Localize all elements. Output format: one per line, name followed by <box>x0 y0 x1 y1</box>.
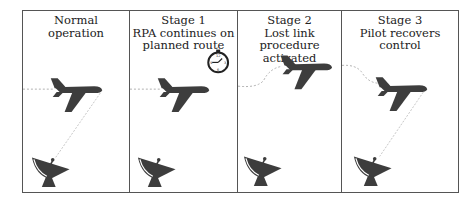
svg-text:12: 12 <box>216 54 220 58</box>
panel-normal-operation: Normal operation <box>23 11 130 192</box>
aircraft-icon <box>158 78 210 112</box>
diagram-frame: Normal operation Stage 1 RPA continues o… <box>22 10 459 193</box>
aircraft-icon <box>376 77 428 111</box>
flight-path-line <box>342 65 378 83</box>
panel-stage-1: Stage 1 RPA continues on planned route 1… <box>130 11 238 192</box>
panel-stage-2: Stage 2 Lost link procedure activated <box>238 11 342 192</box>
svg-text:3: 3 <box>224 61 226 65</box>
satellite-dish-icon <box>354 156 392 186</box>
satellite-dish-icon <box>138 157 176 187</box>
aircraft-icon <box>281 56 333 90</box>
satellite-dish-icon <box>244 156 282 186</box>
svg-text:6: 6 <box>217 68 219 72</box>
panel-stage-3: Stage 3 Pilot recovers control <box>342 11 458 192</box>
stopwatch-icon: 12 3 6 9 <box>208 50 228 73</box>
aircraft-icon <box>51 78 103 112</box>
svg-text:9: 9 <box>210 61 212 65</box>
satellite-dish-icon <box>32 157 70 187</box>
flight-path-line <box>238 66 282 86</box>
